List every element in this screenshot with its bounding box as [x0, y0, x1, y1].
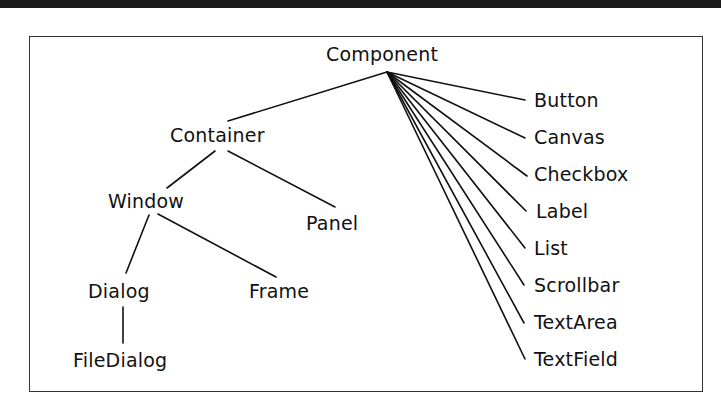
node-canvas: Canvas	[534, 126, 605, 148]
node-checkbox: Checkbox	[534, 163, 628, 185]
edge-container-window	[167, 151, 215, 188]
node-list: List	[534, 237, 568, 259]
node-dialog: Dialog	[88, 280, 150, 302]
edge-component-button	[387, 72, 525, 100]
edge-component-container	[228, 72, 387, 121]
edge-window-frame	[158, 214, 276, 277]
edge-component-textarea	[387, 72, 524, 323]
edge-component-textfield	[387, 72, 525, 359]
node-textfield: TextField	[534, 348, 618, 370]
node-panel: Panel	[306, 212, 358, 234]
edge-window-dialog	[126, 215, 149, 273]
edge-container-panel	[228, 151, 335, 207]
node-window: Window	[108, 190, 184, 212]
node-scrollbar: Scrollbar	[534, 274, 619, 296]
node-filedialog: FileDialog	[73, 349, 167, 371]
node-frame: Frame	[249, 280, 309, 302]
edge-component-label	[387, 72, 526, 211]
node-component: Component	[326, 43, 438, 65]
node-textarea: TextArea	[534, 311, 618, 333]
node-label: Label	[536, 200, 588, 222]
node-button: Button	[534, 89, 599, 111]
node-container: Container	[170, 124, 265, 146]
